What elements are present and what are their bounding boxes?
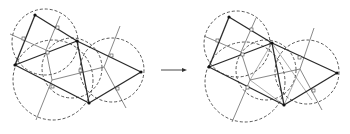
- voronoi-bisectors: [10, 16, 126, 120]
- transition-arrow: [161, 68, 187, 72]
- panel-before: [10, 9, 144, 120]
- triangulation-edges: [209, 17, 337, 105]
- right-angle-markers: [22, 26, 119, 90]
- triangulation-edges: [15, 15, 141, 103]
- vertices: [13, 13, 142, 104]
- edge-flip-diagram: [0, 0, 350, 134]
- vertices: [207, 15, 338, 106]
- panel-after: [204, 11, 339, 122]
